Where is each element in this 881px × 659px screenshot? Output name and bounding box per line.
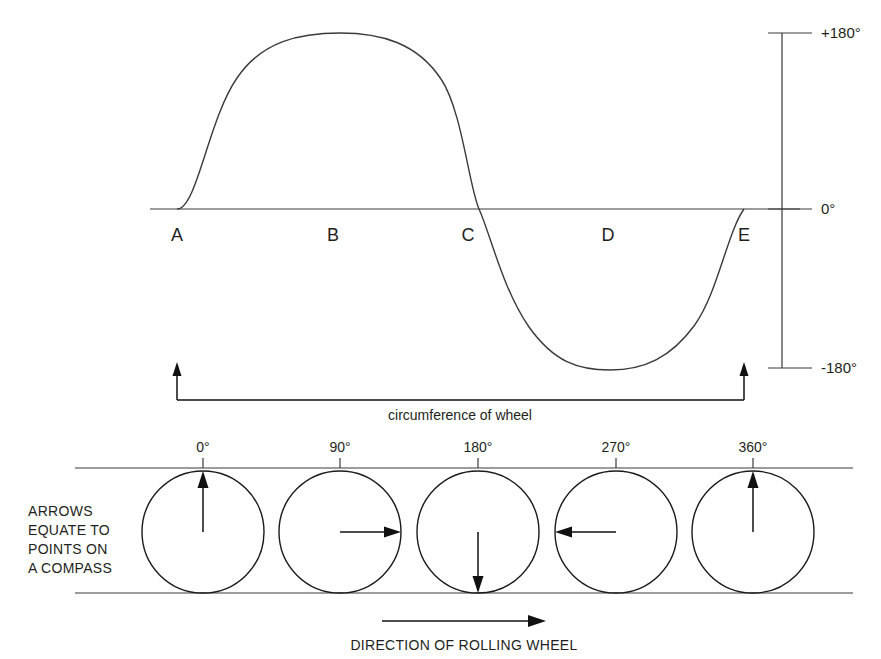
bracket-right-arrowhead: [740, 362, 749, 376]
wheel-360: [692, 471, 814, 593]
degree-label-90: 90°: [329, 440, 350, 454]
sine-curve: [177, 33, 744, 370]
wave-point-label-c: C: [462, 226, 475, 244]
circumference-bracket: [173, 362, 749, 400]
wave-section: [150, 33, 812, 370]
rolling-direction-caption: DIRECTION OF ROLLING WHEEL: [350, 636, 577, 655]
wheel-0: [142, 471, 264, 593]
wave-point-label-d: D: [602, 226, 615, 244]
diagram-svg: [0, 0, 881, 659]
rolling-direction-arrow: [382, 615, 546, 627]
wave-point-label-a: A: [171, 226, 183, 244]
diagram-canvas: +180° 0° -180° A B C D E circumference o…: [0, 0, 881, 659]
degree-label-0: 0°: [196, 440, 209, 454]
wave-point-label-b: B: [327, 226, 339, 244]
wheel-90: [279, 471, 401, 593]
degree-label-270: 270°: [602, 440, 631, 454]
wheel-180: [417, 471, 539, 593]
scale-label-minus180: -180°: [821, 360, 857, 375]
compass-note: ARROWS EQUATE TO POINTS ON A COMPASS: [28, 502, 112, 578]
degree-label-360: 360°: [739, 440, 768, 454]
scale-label-plus180: +180°: [821, 25, 861, 40]
wave-point-label-e: E: [738, 226, 750, 244]
wheel-arrow-head-right-90: [384, 527, 401, 538]
wheel-arrow-head-down-180: [473, 576, 484, 593]
wheel-270: [555, 471, 677, 593]
wheel-arrow-head-up-360: [748, 471, 759, 488]
compass-note-line-3: POINTS ON: [28, 540, 112, 559]
scale-label-zero: 0°: [821, 201, 835, 216]
degree-label-180: 180°: [464, 440, 493, 454]
compass-note-line-1: ARROWS: [28, 502, 112, 521]
compass-note-line-2: EQUATE TO: [28, 521, 112, 540]
bracket-left-arrowhead: [173, 362, 182, 376]
circumference-caption: circumference of wheel: [388, 408, 532, 422]
wheel-track-section: [75, 458, 853, 627]
wheel-arrow-head-up-0: [198, 471, 209, 488]
wheel-arrow-head-left-270: [555, 527, 572, 538]
compass-note-line-4: A COMPASS: [28, 559, 112, 578]
rolling-arrow-head: [528, 615, 546, 627]
